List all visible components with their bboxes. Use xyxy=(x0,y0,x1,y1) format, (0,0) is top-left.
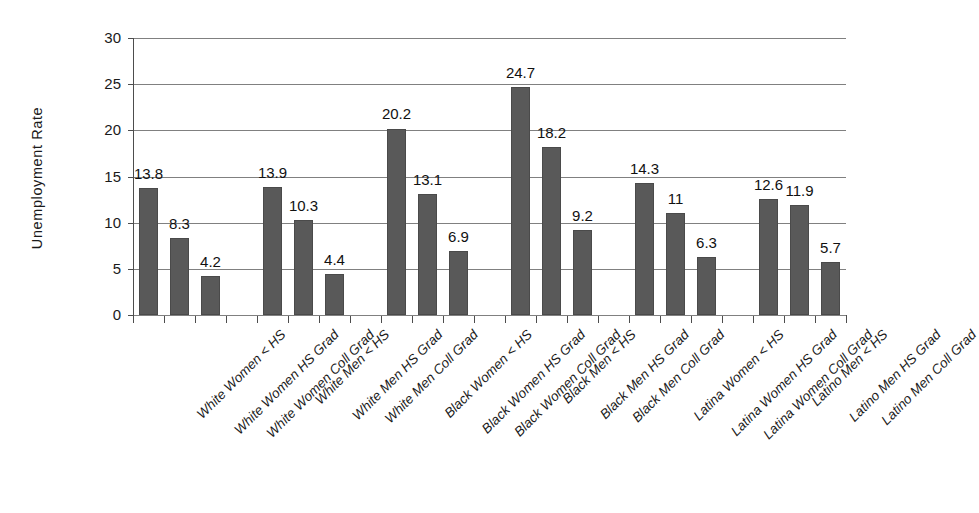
bar[interactable] xyxy=(170,238,189,315)
x-tick-mark xyxy=(536,316,537,323)
bar[interactable] xyxy=(790,205,809,315)
bar[interactable] xyxy=(697,257,716,315)
bar-value-label: 11.9 xyxy=(772,182,828,199)
x-tick-mark xyxy=(443,316,444,323)
bar-value-label: 6.9 xyxy=(431,228,487,245)
bar[interactable] xyxy=(821,262,840,315)
bar-value-label: 14.3 xyxy=(617,160,673,177)
x-tick-mark xyxy=(381,316,382,323)
x-tick-mark xyxy=(133,316,134,323)
y-tick-label: 5 xyxy=(87,260,121,277)
bar-value-label: 13.8 xyxy=(121,165,177,182)
x-tick-mark xyxy=(660,316,661,323)
x-tick-mark xyxy=(226,316,227,323)
bar-value-label: 10.3 xyxy=(276,197,332,214)
x-tick-mark xyxy=(505,316,506,323)
y-axis-title: Unemployment Rate xyxy=(29,78,45,278)
x-tick-mark xyxy=(567,316,568,323)
y-tick-label: 20 xyxy=(87,121,121,138)
y-tick-label: 30 xyxy=(87,29,121,46)
x-tick-mark xyxy=(846,316,847,323)
x-tick-mark xyxy=(722,316,723,323)
bar[interactable] xyxy=(759,199,778,315)
y-tick-label: 10 xyxy=(87,214,121,231)
x-tick-mark xyxy=(350,316,351,323)
x-tick-mark xyxy=(691,316,692,323)
x-tick-mark xyxy=(474,316,475,323)
bar[interactable] xyxy=(201,276,220,315)
bar-value-label: 9.2 xyxy=(555,207,611,224)
bars-container xyxy=(133,38,846,315)
bar[interactable] xyxy=(387,129,406,316)
bar[interactable] xyxy=(325,274,344,315)
x-tick-mark xyxy=(412,316,413,323)
y-tick-label: 0 xyxy=(87,306,121,323)
x-tick-mark xyxy=(288,316,289,323)
x-tick-mark xyxy=(257,316,258,323)
bar-value-label: 13.9 xyxy=(245,164,301,181)
bar[interactable] xyxy=(573,230,592,315)
bar[interactable] xyxy=(418,194,437,315)
x-tick-mark xyxy=(164,316,165,323)
bar-value-label: 8.3 xyxy=(152,215,208,232)
x-tick-mark xyxy=(629,316,630,323)
bar-value-label: 20.2 xyxy=(369,105,425,122)
bar-value-label: 6.3 xyxy=(679,234,735,251)
bar[interactable] xyxy=(666,213,685,315)
y-tick-label: 25 xyxy=(87,75,121,92)
bar-value-label: 4.2 xyxy=(183,253,239,270)
bar-value-label: 4.4 xyxy=(307,251,363,268)
bar[interactable] xyxy=(511,87,530,315)
bar-value-label: 13.1 xyxy=(400,171,456,188)
x-axis-category-label: White Women < HS xyxy=(193,327,288,422)
bar[interactable] xyxy=(542,147,561,315)
bar-value-label: 11 xyxy=(648,190,704,207)
y-tick-label: 15 xyxy=(87,168,121,185)
bar-value-label: 24.7 xyxy=(493,64,549,81)
x-tick-mark xyxy=(815,316,816,323)
x-tick-mark xyxy=(598,316,599,323)
gridline xyxy=(133,315,846,316)
x-tick-mark xyxy=(784,316,785,323)
bar[interactable] xyxy=(139,188,158,315)
x-tick-mark xyxy=(195,316,196,323)
bar-value-label: 18.2 xyxy=(524,124,580,141)
x-tick-mark xyxy=(753,316,754,323)
x-tick-mark xyxy=(319,316,320,323)
bar[interactable] xyxy=(449,251,468,315)
bar-value-label: 5.7 xyxy=(803,239,859,256)
